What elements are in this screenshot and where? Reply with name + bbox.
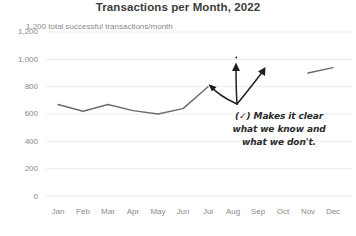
ytick-label-400: 400 — [2, 138, 38, 146]
xtick-label-apr: Apr — [127, 208, 139, 216]
xtick-label-jul: Jul — [203, 208, 213, 216]
xtick-label-jun: Jun — [177, 208, 190, 216]
data-line-known-late — [308, 68, 333, 73]
xtick-label-jan: Jan — [52, 208, 65, 216]
xtick-label-mar: Mar — [101, 208, 115, 216]
handwritten-annotation: (✓) Makes it clear what we know and what… — [205, 110, 353, 149]
xtick-label-sep: Sep — [251, 208, 265, 216]
annotation-arrows — [211, 66, 264, 104]
ytick-label-0: 0 — [2, 193, 38, 201]
ytick-label-600: 600 — [2, 110, 38, 118]
xtick-label-oct: Oct — [277, 208, 289, 216]
xtick-label-dec: Dec — [326, 208, 340, 216]
xtick-label-feb: Feb — [76, 208, 90, 216]
annotation-line-3: what we don't. — [205, 136, 353, 149]
xtick-label-aug: Aug — [226, 208, 240, 216]
annotation-text-1: Makes it clear — [254, 111, 323, 121]
ytick-label-1000: 1,000 — [2, 56, 38, 64]
xtick-label-nov: Nov — [301, 208, 315, 216]
ytick-label-1200: 1,200 — [2, 28, 38, 36]
data-line-known-early — [58, 87, 208, 114]
ytick-label-200: 200 — [2, 165, 38, 173]
ytick-label-800: 800 — [2, 83, 38, 91]
chart-container: Transactions per Month, 2022 1,200 total… — [0, 0, 356, 236]
annotation-line-2: what we know and — [205, 123, 353, 136]
check-icon: (✓) — [235, 111, 250, 121]
annotation-line-1: (✓) Makes it clear — [205, 110, 353, 123]
xtick-label-may: May — [150, 208, 165, 216]
